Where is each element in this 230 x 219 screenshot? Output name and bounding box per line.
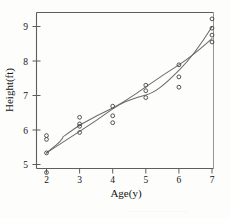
data-point bbox=[45, 134, 49, 138]
x-axis-title: Age(y) bbox=[110, 187, 141, 200]
data-point bbox=[144, 89, 148, 93]
data-point bbox=[177, 75, 181, 79]
x-tick-label-3: 3 bbox=[77, 175, 82, 185]
data-point bbox=[78, 115, 82, 119]
scan-smudge-text: . . . . . . . . . . . . . . . . . . bbox=[129, 208, 187, 213]
x-tick-label-6: 6 bbox=[177, 175, 182, 185]
x-tick-label-7: 7 bbox=[210, 175, 215, 185]
data-point bbox=[144, 96, 148, 100]
x-axis-tick-labels: 2 3 4 5 6 7 bbox=[44, 175, 215, 185]
x-tick-label-2: 2 bbox=[44, 175, 49, 185]
figure-canvas: 9 8 7 6 5 2 3 4 5 6 7 Height(ft) Age(y) bbox=[0, 0, 230, 219]
data-point bbox=[177, 85, 181, 89]
y-axis-tick-labels: 9 8 7 6 5 bbox=[23, 22, 28, 170]
data-point bbox=[111, 114, 115, 118]
x-tick-label-4: 4 bbox=[110, 175, 115, 185]
y-tick-label-8: 8 bbox=[23, 57, 28, 67]
plot-frame bbox=[37, 13, 214, 169]
data-points-group bbox=[45, 17, 214, 174]
height-vs-age-scatter-plot: 9 8 7 6 5 2 3 4 5 6 7 Height(ft) Age(y) bbox=[0, 0, 230, 219]
concave-fit-curve bbox=[47, 39, 213, 153]
x-axis-ticks bbox=[47, 169, 213, 174]
y-tick-label-6: 6 bbox=[23, 126, 28, 136]
y-tick-label-7: 7 bbox=[23, 91, 28, 101]
data-point bbox=[111, 121, 115, 125]
convex-fit-curve bbox=[47, 27, 213, 153]
data-point bbox=[45, 138, 49, 142]
x-tick-label-5: 5 bbox=[143, 175, 148, 185]
y-axis-title: Height(ft) bbox=[3, 68, 16, 112]
y-tick-label-5: 5 bbox=[23, 160, 28, 170]
y-tick-label-9: 9 bbox=[23, 22, 28, 32]
